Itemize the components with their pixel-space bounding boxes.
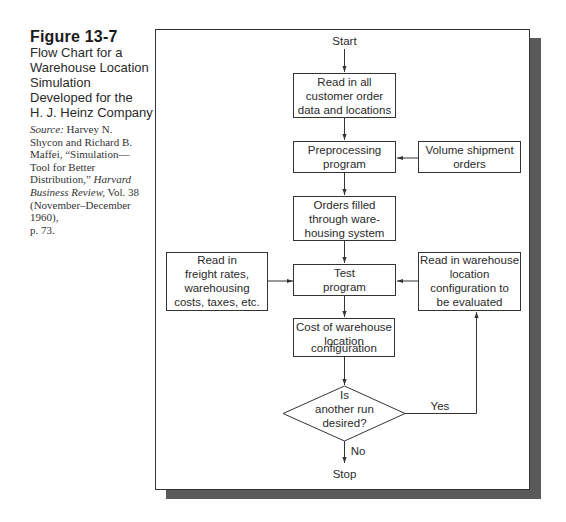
svg-text:orders: orders <box>453 158 486 170</box>
svg-text:Read in warehouse: Read in warehouse <box>420 254 519 266</box>
svg-text:program: program <box>323 281 366 293</box>
svg-text:warehousing: warehousing <box>183 282 249 294</box>
svg-text:Is: Is <box>340 389 349 401</box>
svg-text:another run: another run <box>315 403 374 415</box>
stop-label: Stop <box>333 468 357 480</box>
svg-text:Test: Test <box>334 267 356 279</box>
no-label: No <box>351 445 366 457</box>
flowchart: Start Read in all customer order data an… <box>0 0 566 522</box>
svg-text:data and locations: data and locations <box>298 104 392 116</box>
svg-text:through ware-: through ware- <box>309 213 380 225</box>
svg-text:configuration: configuration <box>311 342 377 354</box>
start-label: Start <box>332 35 357 47</box>
svg-text:freight rates,: freight rates, <box>185 268 249 280</box>
svg-text:housing system: housing system <box>305 227 385 239</box>
svg-text:Preprocessing: Preprocessing <box>308 144 382 156</box>
svg-text:program: program <box>323 158 366 170</box>
svg-text:be evaluated: be evaluated <box>437 296 503 308</box>
svg-text:costs, taxes, etc.: costs, taxes, etc. <box>174 296 260 308</box>
svg-text:desired?: desired? <box>322 417 366 429</box>
svg-text:configuration to: configuration to <box>430 282 509 294</box>
svg-text:Orders filled: Orders filled <box>314 199 376 211</box>
svg-text:Volume shipment: Volume shipment <box>425 144 514 156</box>
svg-text:Cost of warehouse: Cost of warehouse <box>296 321 392 333</box>
svg-text:Read in: Read in <box>197 254 237 266</box>
svg-text:Read in all: Read in all <box>317 76 371 88</box>
yes-label: Yes <box>431 400 450 412</box>
svg-text:customer order: customer order <box>306 90 384 102</box>
svg-text:location: location <box>450 268 490 280</box>
